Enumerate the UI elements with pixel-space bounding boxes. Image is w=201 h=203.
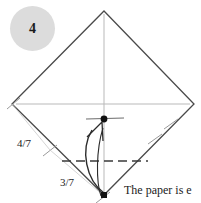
step-number-badge: 4 xyxy=(10,6,55,51)
origami-step-diagram: 4 4/7 3/7 The paper is e xyxy=(0,0,201,203)
measurement-label-four-sevenths: 4/7 xyxy=(17,137,31,149)
measure-guide-lower xyxy=(50,150,104,196)
caption-text: The paper is e xyxy=(124,183,192,198)
step-number-label: 4 xyxy=(29,22,36,36)
center-target-dot xyxy=(101,116,108,123)
bottom-vertex-dot xyxy=(101,192,107,198)
measurement-label-three-sevenths: 3/7 xyxy=(60,176,74,188)
fold-arrow-curve-inner xyxy=(97,128,103,196)
